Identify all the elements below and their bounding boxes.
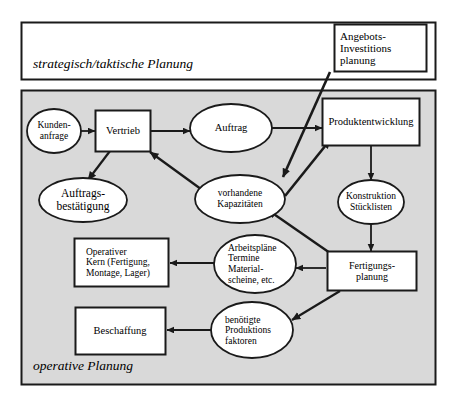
node-fertigungsplanung[interactable] xyxy=(328,252,417,291)
node-kundenanfrage[interactable] xyxy=(27,109,81,153)
node-operativer-kern[interactable] xyxy=(75,239,169,287)
node-auftrag[interactable] xyxy=(190,104,272,152)
node-auftragsbestaetigung[interactable] xyxy=(39,178,127,222)
diagram-canvas: strategisch/taktische Planung operative … xyxy=(0,0,456,401)
zone-label-operative: operative Planung xyxy=(33,358,133,374)
node-vertrieb[interactable] xyxy=(96,111,151,152)
node-konstruktion-stuecklisten[interactable] xyxy=(338,180,404,224)
node-produktentwicklung[interactable] xyxy=(323,99,420,146)
node-arbeitsplaene[interactable] xyxy=(214,235,296,293)
node-produktionsfaktoren[interactable] xyxy=(211,302,293,358)
node-beschaffung[interactable] xyxy=(76,308,166,355)
node-vorhandene-kapazitaeten[interactable] xyxy=(195,175,285,223)
zone-label-strategic: strategisch/taktische Planung xyxy=(33,56,193,72)
node-angebots-investitionsplanung[interactable] xyxy=(335,25,427,72)
